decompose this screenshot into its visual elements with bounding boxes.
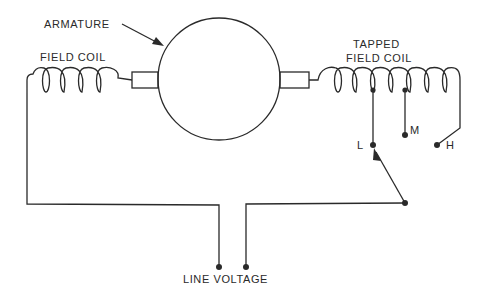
field-coil	[27, 67, 132, 200]
right-line-wire	[246, 203, 405, 266]
tapped-field-coil-label-line2: FIELD COIL	[346, 52, 412, 64]
tap-contact-m	[402, 132, 408, 138]
tap-contact-h	[434, 142, 440, 148]
tap-label-l: L	[357, 139, 364, 151]
line-voltage-label: LINE VOLTAGE	[183, 273, 268, 285]
tap-label-h: H	[446, 139, 455, 151]
armature	[158, 18, 280, 140]
field-coil-label: FIELD COIL	[40, 51, 106, 63]
tap-contact-l	[370, 142, 376, 148]
selector-switch-arm	[373, 148, 408, 206]
line-terminal-right	[243, 264, 249, 270]
tap-label-m: M	[410, 124, 420, 136]
armature-pointer-arrow	[122, 24, 164, 46]
motor-wiring-diagram: ARMATURE FIELD COIL TAPPED FIELD COIL L …	[0, 0, 485, 294]
left-line-wire	[27, 200, 219, 266]
right-brush	[280, 72, 309, 88]
armature-label: ARMATURE	[44, 18, 110, 30]
tapped-field-coil-label-line1: TAPPED	[353, 38, 400, 50]
left-brush	[132, 72, 158, 88]
tapped-field-coil	[309, 67, 460, 145]
line-terminal-left	[216, 264, 222, 270]
